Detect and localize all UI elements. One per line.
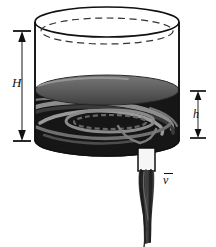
liquid-surface: [35, 75, 179, 105]
label-total-height-H: H: [12, 76, 21, 89]
label-liquid-depth-h: h: [193, 108, 199, 120]
discharge-nozzle: [138, 148, 155, 171]
H-arrow-down-icon: [18, 130, 26, 141]
discharge-assembly: [138, 148, 155, 247]
h-arrow-down-icon: [195, 129, 202, 138]
efflux-jet: [138, 170, 154, 247]
H-arrow-up-icon: [18, 31, 26, 42]
label-efflux-velocity-glyph: v: [163, 174, 168, 186]
h-arrow-up-icon: [195, 91, 202, 100]
label-efflux-velocity: v: [163, 172, 179, 190]
tank-diagram-svg: [0, 0, 216, 247]
tank-efflux-figure: H h v: [0, 0, 216, 247]
